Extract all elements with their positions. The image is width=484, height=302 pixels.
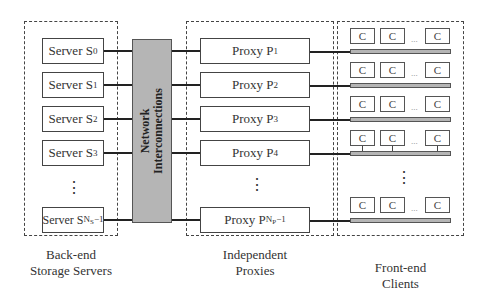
client-ellipsis: ... bbox=[411, 203, 418, 213]
server-label: Server S bbox=[49, 77, 93, 93]
client-box: C bbox=[380, 96, 405, 112]
link-server-0 bbox=[104, 50, 132, 52]
clients-vertical-ellipsis: ⋮ bbox=[396, 170, 406, 186]
server-box-last: Server SNS−1 bbox=[42, 207, 104, 233]
link-proxy-2 bbox=[172, 84, 200, 86]
client-ellipsis: ... bbox=[411, 136, 418, 146]
client-box: C bbox=[380, 130, 405, 146]
server-box-1: Server S1 bbox=[42, 72, 104, 98]
client-box: C bbox=[350, 96, 375, 112]
client-bus-last bbox=[350, 218, 451, 223]
server-subscript-tail: −1 bbox=[94, 214, 104, 224]
client-box: C bbox=[425, 197, 450, 213]
client-box: C bbox=[425, 96, 450, 112]
proxies-vertical-ellipsis: ⋮ bbox=[249, 177, 259, 193]
clients-caption-line1: Front-end bbox=[350, 260, 451, 276]
client-bus-3 bbox=[350, 117, 451, 122]
proxy-box-last: Proxy PNP−1 bbox=[200, 207, 310, 233]
network-interconnections: Network Interconnections bbox=[132, 39, 172, 223]
proxies-caption-line2: Proxies bbox=[200, 263, 310, 279]
client-box: C bbox=[380, 28, 405, 44]
proxy-subscript: 3 bbox=[274, 114, 279, 124]
link-bus-last bbox=[310, 220, 350, 222]
proxy-label: Proxy P bbox=[232, 77, 274, 93]
client-box: C bbox=[425, 28, 450, 44]
proxy-label: Proxy P bbox=[232, 145, 274, 161]
clients-caption-line2: Clients bbox=[350, 276, 451, 292]
client-box: C bbox=[425, 62, 450, 78]
link-proxy-4 bbox=[172, 152, 200, 154]
client-bus-2 bbox=[350, 83, 451, 88]
link-bus-2 bbox=[310, 85, 350, 87]
proxy-label: Proxy P bbox=[232, 111, 274, 127]
client-box: C bbox=[350, 62, 375, 78]
link-bus-4 bbox=[310, 153, 350, 155]
servers-caption-line1: Back-end bbox=[14, 247, 128, 263]
proxy-box-2: Proxy P2 bbox=[200, 72, 310, 98]
proxy-box-3: Proxy P3 bbox=[200, 106, 310, 132]
network-label: Network Interconnections bbox=[139, 88, 165, 174]
client-box: C bbox=[380, 62, 405, 78]
server-label: Server S bbox=[49, 145, 93, 161]
client-box: C bbox=[425, 130, 450, 146]
server-subscript: 2 bbox=[93, 114, 98, 124]
server-label: Server S bbox=[49, 43, 93, 59]
proxy-subscript: 4 bbox=[274, 148, 279, 158]
link-server-2 bbox=[104, 118, 132, 120]
link-proxy-last bbox=[172, 219, 200, 221]
server-box-3: Server S3 bbox=[42, 140, 104, 166]
servers-caption-line2: Storage Servers bbox=[14, 263, 128, 279]
client-ellipsis: ... bbox=[411, 34, 418, 44]
proxy-subscript: 1 bbox=[274, 46, 279, 56]
network-label-line2: Interconnections bbox=[152, 88, 165, 174]
proxy-box-4: Proxy P4 bbox=[200, 140, 310, 166]
client-ellipsis: ... bbox=[411, 102, 418, 112]
link-bus-3 bbox=[310, 119, 350, 121]
client-box: C bbox=[380, 197, 405, 213]
client-box: C bbox=[350, 197, 375, 213]
link-bus-1 bbox=[310, 51, 350, 53]
clients-caption: Front-end Clients bbox=[350, 260, 451, 292]
server-box-0: Server S0 bbox=[42, 38, 104, 64]
client-bus-4 bbox=[350, 151, 451, 156]
client-box: C bbox=[350, 28, 375, 44]
link-server-3 bbox=[104, 152, 132, 154]
server-subscript: 1 bbox=[93, 80, 98, 90]
link-server-last bbox=[104, 219, 132, 221]
servers-vertical-ellipsis: ⋮ bbox=[66, 180, 76, 196]
server-subscript: 0 bbox=[93, 46, 98, 56]
proxy-label: Proxy P bbox=[224, 212, 266, 228]
server-subscript: 3 bbox=[93, 148, 98, 158]
proxies-caption: Independent Proxies bbox=[200, 247, 310, 279]
proxy-box-1: Proxy P1 bbox=[200, 38, 310, 64]
server-box-2: Server S2 bbox=[42, 106, 104, 132]
server-label: Server S bbox=[49, 111, 93, 127]
proxy-subscript: 2 bbox=[274, 80, 279, 90]
servers-caption: Back-end Storage Servers bbox=[14, 247, 128, 279]
proxies-caption-line1: Independent bbox=[200, 247, 310, 263]
client-bus-1 bbox=[350, 49, 451, 54]
link-server-1 bbox=[104, 84, 132, 86]
client-ellipsis: ... bbox=[411, 68, 418, 78]
proxy-subscript-tail: −1 bbox=[276, 214, 286, 224]
proxy-label: Proxy P bbox=[232, 43, 274, 59]
link-proxy-1 bbox=[172, 50, 200, 52]
link-proxy-3 bbox=[172, 118, 200, 120]
client-box: C bbox=[350, 130, 375, 146]
server-label: Server S bbox=[43, 213, 84, 228]
